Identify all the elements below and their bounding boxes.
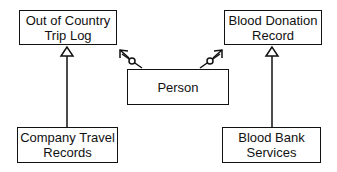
association-right — [200, 50, 222, 68]
class-label-line1: Blood Donation — [229, 13, 318, 28]
class-label-line2: Record — [252, 28, 294, 43]
generalization-right — [266, 47, 278, 127]
association-left — [120, 50, 142, 68]
class-label-line2: Records — [43, 145, 91, 160]
class-label-line2: Trip Log — [44, 28, 91, 43]
class-person[interactable]: Person — [127, 69, 229, 105]
class-label: Person — [157, 80, 198, 95]
class-blood-bank-services[interactable]: Blood Bank Services — [222, 127, 321, 163]
class-blood-donation-record[interactable]: Blood Donation Record — [224, 10, 322, 45]
class-label-line1: Company Travel — [20, 130, 115, 145]
class-company-travel-records[interactable]: Company Travel Records — [17, 127, 118, 163]
generalization-left — [61, 47, 73, 127]
class-label-line2: Services — [247, 145, 297, 160]
class-out-of-country-trip-log[interactable]: Out of Country Trip Log — [19, 10, 117, 45]
class-label-line1: Blood Bank — [238, 130, 305, 145]
class-label-line1: Out of Country — [26, 13, 111, 28]
